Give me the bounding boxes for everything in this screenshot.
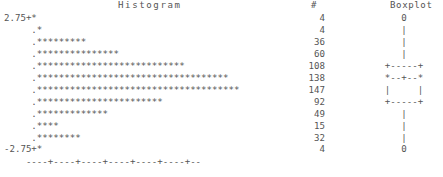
column-headers: Histogram # Boxplot (0, 0, 443, 12)
boxplot-column-header: Boxplot (390, 0, 433, 12)
histogram-column-header: Histogram (118, 0, 182, 12)
count-column-header: # (311, 0, 316, 12)
boxplot-glyphs: 0 | | | +-----+ *--+--* | | +-----+ | | … (374, 13, 434, 156)
histogram-bars: 2.75+* .* .********* .*************** .*… (4, 13, 239, 156)
count-column-values: 4 4 36 60 108 138 147 92 49 15 32 4 (285, 13, 325, 156)
histogram-boxplot-chart: Histogram # Boxplot 2.75+* .* .*********… (0, 0, 443, 177)
histogram-axis-tick-line: ----+----+----+----+----+----+-- (4, 157, 201, 169)
